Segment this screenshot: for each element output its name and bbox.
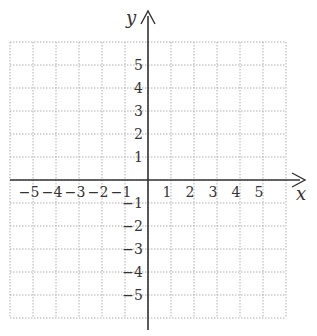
y-tick-label: −1 — [122, 195, 143, 211]
y-tick-label: −3 — [122, 241, 143, 257]
x-tick-label: 2 — [186, 184, 195, 200]
y-tick-label: 3 — [134, 103, 143, 119]
x-tick-label: 3 — [209, 184, 218, 200]
x-tick-label: 1 — [163, 184, 172, 200]
y-axis-label: y — [125, 7, 137, 28]
x-tick-label: −5 — [19, 184, 40, 200]
x-tick-label: −3 — [65, 184, 86, 200]
y-tick-label: −2 — [122, 218, 143, 234]
x-tick-label: −2 — [88, 184, 109, 200]
y-tick-label: 2 — [134, 126, 143, 142]
y-tick-label: 1 — [134, 149, 143, 165]
x-tick-label: −4 — [42, 184, 63, 200]
x-tick-label: 5 — [255, 184, 264, 200]
x-axis-label: x — [296, 183, 306, 204]
y-tick-label: 5 — [134, 57, 143, 73]
y-tick-label: 4 — [134, 80, 143, 96]
coordinate-plane: x y −5−4−3−2−112345 54321−1−2−3−4−5 — [0, 0, 317, 336]
y-tick-label: −4 — [122, 264, 143, 280]
x-tick-label: 4 — [232, 184, 241, 200]
y-tick-label: −5 — [122, 287, 143, 303]
axes — [10, 11, 305, 330]
